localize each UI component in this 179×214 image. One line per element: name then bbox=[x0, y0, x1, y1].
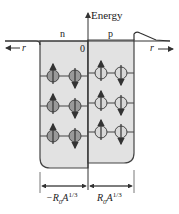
origin-label: 0 bbox=[80, 44, 85, 54]
radius-label-left: r bbox=[22, 43, 26, 53]
neutron-label: n bbox=[60, 29, 65, 39]
radius-label-right: r bbox=[150, 43, 154, 53]
dimension-left-label: −R0A1/3 bbox=[46, 192, 77, 206]
coulomb-barrier bbox=[134, 32, 170, 41]
dimension-right-label: R0A1/3 bbox=[97, 192, 122, 206]
energy-axis-label: Energy bbox=[91, 10, 123, 21]
proton-label: p bbox=[108, 29, 113, 39]
nuclear-potential-well-diagram bbox=[0, 0, 179, 214]
